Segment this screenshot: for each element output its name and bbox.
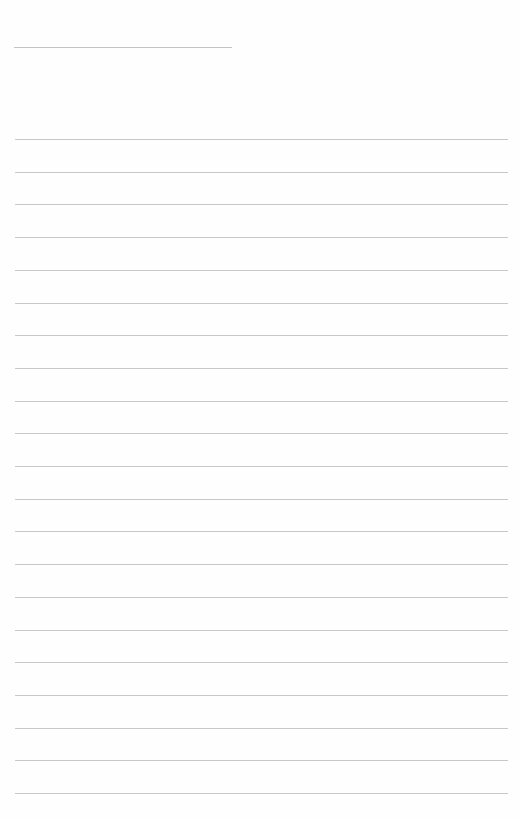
title-line <box>14 47 232 48</box>
ruled-line <box>15 564 508 565</box>
ruled-line <box>15 139 508 140</box>
ruled-line <box>15 695 508 696</box>
ruled-line <box>15 630 508 631</box>
ruled-line <box>15 401 508 402</box>
ruled-line <box>15 433 508 434</box>
ruled-line <box>15 466 508 467</box>
ruled-line <box>15 760 508 761</box>
ruled-line <box>15 793 508 794</box>
ruled-line <box>15 335 508 336</box>
ruled-line <box>15 172 508 173</box>
ruled-line <box>15 368 508 369</box>
ruled-line <box>15 270 508 271</box>
ruled-line <box>15 531 508 532</box>
ruled-line <box>15 499 508 500</box>
ruled-line <box>15 204 508 205</box>
ruled-line <box>15 597 508 598</box>
ruled-line <box>15 662 508 663</box>
ruled-line <box>15 728 508 729</box>
ruled-line <box>15 237 508 238</box>
ruled-page <box>0 0 520 819</box>
ruled-line <box>15 303 508 304</box>
